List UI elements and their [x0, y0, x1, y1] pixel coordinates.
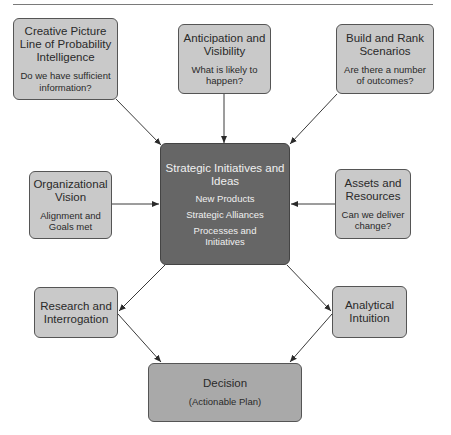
arrow-strategic-to-research — [119, 265, 165, 311]
node-build-rank: Build and Rank Scenarios Are there a num… — [336, 24, 434, 94]
node-decision: Decision (Actionable Plan) — [148, 363, 302, 422]
arrow-build-to-strategic — [290, 94, 337, 144]
node-subtitle: (Actionable Plan) — [189, 396, 261, 408]
node-title: Organizational Vision — [33, 178, 107, 204]
node-question: Can we deliver change? — [340, 209, 406, 232]
node-analytical: Analytical Intuition — [332, 286, 407, 338]
node-question: Alignment and Goals met — [34, 210, 107, 233]
node-title: Strategic Initiatives and Ideas — [165, 162, 285, 188]
node-question: What is likely to happen? — [183, 64, 266, 87]
node-creative-picture: Creative Picture Line of Probability Int… — [13, 18, 118, 100]
node-question: Are there a number of outcomes? — [341, 64, 429, 87]
arrow-research-to-decision — [118, 314, 161, 362]
node-title: Anticipation and Visibility — [183, 32, 266, 58]
node-assets-resources: Assets and Resources Can we deliver chan… — [335, 169, 411, 239]
node-anticipation: Anticipation and Visibility What is like… — [178, 24, 271, 94]
node-title: Decision — [203, 377, 247, 390]
node-title: Creative Picture Line of Probability Int… — [18, 25, 113, 64]
node-strategic-initiatives: Strategic Initiatives and Ideas New Prod… — [160, 143, 290, 265]
node-title: Build and Rank Scenarios — [341, 32, 429, 58]
arrow-creative-to-strategic — [116, 99, 161, 145]
node-item-new-products: New Products — [195, 193, 254, 204]
node-title: Assets and Resources — [340, 177, 406, 203]
node-question: Do we have sufficient information? — [18, 70, 113, 93]
arrow-strategic-to-analytical — [287, 265, 331, 311]
node-research: Research and Interrogation — [34, 287, 118, 338]
node-title: Research and Interrogation — [39, 300, 113, 326]
arrow-analytical-to-decision — [290, 314, 332, 362]
node-title: Analytical Intuition — [337, 299, 402, 325]
node-item-processes: Processes and Initiatives — [165, 225, 285, 247]
node-item-strategic-alliances: Strategic Alliances — [186, 209, 264, 220]
node-organizational-vision: Organizational Vision Alignment and Goal… — [29, 171, 112, 239]
